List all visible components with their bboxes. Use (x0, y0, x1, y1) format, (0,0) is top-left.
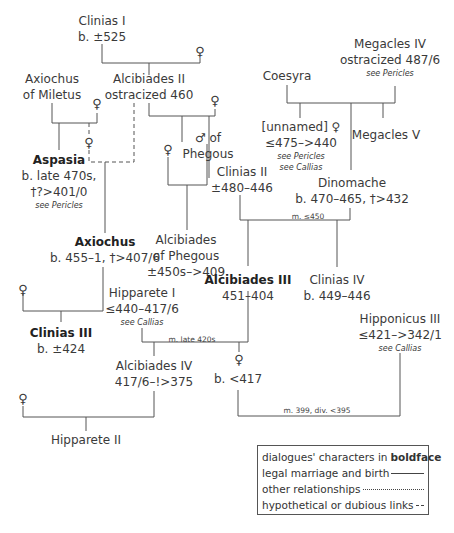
female-symbol-icon: ♀ (195, 45, 205, 58)
cross-reference: see Pericles (340, 68, 440, 79)
person-name: Clinias IV (303, 272, 370, 288)
cross-reference: see Callias (358, 343, 442, 354)
female-symbol-icon: ♀ (84, 136, 94, 149)
person-name: Clinias III (30, 325, 93, 341)
person-dates: b. ±525 (78, 29, 126, 45)
person-name: Alcibiades IV (115, 358, 193, 374)
marriage-label: m. 399, div. <395 (283, 406, 350, 415)
person-aspasia: Aspasia b. late 470s, †?>401/0 see Peric… (22, 152, 97, 211)
female-symbol-icon: ♀ (92, 97, 102, 110)
person-alcibiades-ii: Alcibiades II ostracized 460 (105, 71, 194, 103)
person-dates: b. late 470s, (22, 168, 97, 184)
person-name: Alcibiades III (205, 272, 292, 288)
legend: dialogues' characters in boldface legal … (257, 445, 429, 515)
person-clinias-iv: Clinias IV b. 449–446 (303, 272, 370, 304)
female-symbol-icon: ♀ (18, 392, 28, 405)
legend-boldface: dialogues' characters in boldface (262, 449, 424, 465)
person-alcibiades-iii: Alcibiades III 451–404 (205, 272, 292, 304)
person-dates: ≤440–417/6 (105, 301, 179, 317)
person-name: Axiochus (50, 234, 160, 250)
person-hipponicus-iii: Hipponicus III ≤421–>342/1 see Callias (358, 311, 442, 354)
female-symbol-icon: ♀ (18, 283, 28, 296)
person-origin: Phegous (182, 146, 233, 162)
person-origin: of Miletus (23, 87, 81, 103)
person-name: Megacles IV (340, 36, 440, 52)
legend-legal-marriage: legal marriage and birth (262, 465, 424, 481)
cross-reference: see Pericles (22, 200, 97, 211)
person-name: Hipparete II (51, 432, 121, 448)
person-name: ♂ of (182, 130, 233, 146)
person-dates: ≤475–>440 (262, 135, 341, 151)
person-name: Clinias I (78, 13, 126, 29)
person-dates: b. 455–1, †>407/6 (50, 250, 160, 266)
person-name: Megacles V (352, 127, 420, 143)
legend-other-relationships: other relationships (262, 481, 424, 497)
person-dates: b. 470–465, †>432 (295, 191, 409, 207)
genealogy-diagram: Clinias I b. ±525 ♀ Megacles IV ostraciz… (0, 0, 454, 533)
legend-bold-text: boldface (391, 449, 442, 465)
person-axiochus-of-miletus: Axiochus of Miletus (23, 71, 81, 103)
person-dates: b. ±424 (30, 341, 93, 357)
legend-text: legal marriage and birth (262, 465, 389, 481)
cross-reference: see Pericles (262, 151, 341, 162)
cross-reference: see Callias (262, 162, 341, 173)
legend-text: dialogues' characters in (262, 449, 388, 465)
legend-text: hypothetical or dubious links (262, 497, 414, 513)
person-name: Alcibiades II (105, 71, 194, 87)
person-male-of-phegous: ♂ of Phegous (182, 130, 233, 162)
person-name: Axiochus (23, 71, 81, 87)
person-megacles-v: Megacles V (352, 127, 420, 143)
person-name: Hipparete I (105, 285, 179, 301)
person-coesyra: Coesyra (263, 68, 312, 84)
person-dates: 417/6–!>375 (115, 374, 193, 390)
dotted-line-sample (363, 489, 425, 490)
person-death: †?>401/0 (22, 184, 97, 200)
person-clinias-ii: Clinias II ±480–446 (211, 164, 273, 196)
female-symbol-icon: ♀ (210, 94, 220, 107)
person-name: Clinias II (211, 164, 273, 180)
person-dates: ±480–446 (211, 180, 273, 196)
person-hipparete-ii: Hipparete II (51, 432, 121, 448)
dashed-line-sample (416, 505, 424, 506)
marriage-label: m. late 420s (169, 335, 216, 344)
person-name: Hipponicus III (358, 311, 442, 327)
person-hipparete-i: Hipparete I ≤440–417/6 see Callias (105, 285, 179, 328)
person-dates: b. 449–446 (303, 288, 370, 304)
marriage-label: m. ≤450 (292, 212, 325, 221)
person-dates: b. <417 (214, 371, 262, 387)
person-clinias-iii: Clinias III b. ±424 (30, 325, 93, 357)
person-name: [unnamed] ♀ (262, 119, 341, 135)
person-dates: ostracized 487/6 (340, 52, 440, 68)
person-megacles-iv: Megacles IV ostracized 487/6 see Pericle… (340, 36, 440, 79)
person-unnamed-female: [unnamed] ♀ ≤475–>440 see Pericles see C… (262, 119, 341, 173)
person-daughter: b. <417 (214, 371, 262, 387)
person-dinomache: Dinomache b. 470–465, †>432 (295, 175, 409, 207)
person-axiochus: Axiochus b. 455–1, †>407/6 (50, 234, 160, 266)
person-dates: 451–404 (205, 288, 292, 304)
legend-text: other relationships (262, 481, 361, 497)
cross-reference: see Callias (105, 317, 179, 328)
person-clinias-i: Clinias I b. ±525 (78, 13, 126, 45)
person-name: Aspasia (22, 152, 97, 168)
female-symbol-icon: ♀ (163, 143, 173, 156)
legend-hypothetical-links: hypothetical or dubious links (262, 497, 424, 513)
female-symbol-icon: ♀ (234, 353, 244, 366)
person-alcibiades-iv: Alcibiades IV 417/6–!>375 (115, 358, 193, 390)
person-name: Dinomache (295, 175, 409, 191)
person-dates: ≤421–>342/1 (358, 327, 442, 343)
person-name: Coesyra (263, 68, 312, 84)
person-dates: ostracized 460 (105, 87, 194, 103)
solid-line-sample (391, 473, 424, 474)
